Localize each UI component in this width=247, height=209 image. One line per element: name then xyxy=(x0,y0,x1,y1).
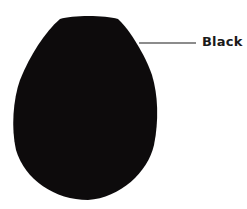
diagram-canvas xyxy=(0,0,247,209)
egg-shape xyxy=(13,16,157,200)
color-label: Black xyxy=(202,34,243,49)
